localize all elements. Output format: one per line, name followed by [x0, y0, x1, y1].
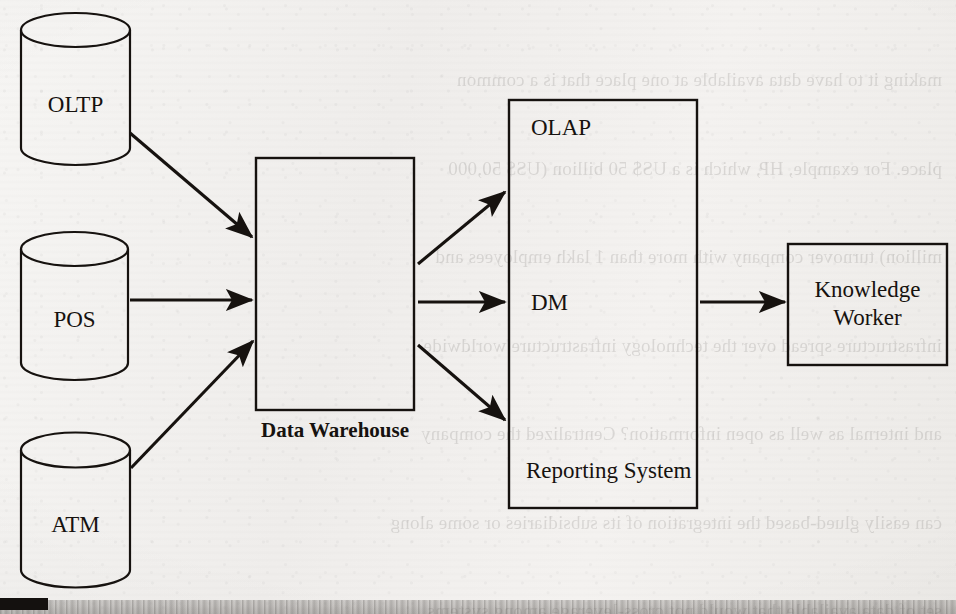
scan-edge-marker	[0, 598, 48, 610]
arrow-oltp-to-data-warehouse	[130, 133, 252, 237]
source-node-pos[interactable]: POS	[21, 232, 128, 380]
analytics-item-dm[interactable]: DM	[531, 290, 568, 315]
source-node-atm[interactable]: ATM	[21, 433, 130, 588]
data-warehouse-box	[256, 158, 414, 410]
data-warehouse-caption: Data Warehouse	[261, 418, 409, 442]
source-label-oltp: OLTP	[48, 92, 103, 117]
data-warehouse-architecture-diagram: OLTP POS ATM Data Warehouse	[0, 0, 956, 614]
cylinder-top-atm	[21, 433, 130, 468]
analytics-item-olap[interactable]: OLAP	[531, 115, 591, 140]
knowledge-worker-label-line2: Worker	[833, 305, 902, 330]
scanned-page: making it to have data available at one …	[0, 0, 956, 614]
knowledge-worker-label-line1: Knowledge	[814, 277, 920, 302]
source-label-pos: POS	[53, 307, 95, 332]
cylinder-top-oltp	[21, 13, 130, 47]
source-label-atm: ATM	[51, 512, 100, 537]
analytics-node[interactable]: OLAP DM Reporting System	[509, 100, 697, 508]
knowledge-worker-node[interactable]: Knowledge Worker	[788, 244, 947, 365]
cylinder-top-pos	[21, 232, 128, 266]
analytics-item-reporting-system[interactable]: Reporting System	[526, 458, 692, 483]
arrow-data-warehouse-to-reporting-system	[418, 345, 505, 420]
page-bottom-edge-strip	[0, 600, 956, 614]
arrow-atm-to-data-warehouse	[131, 341, 253, 468]
source-node-oltp[interactable]: OLTP	[21, 13, 130, 165]
data-warehouse-node[interactable]: Data Warehouse	[256, 158, 414, 442]
page-bottom-edge-texture	[0, 600, 956, 614]
arrow-data-warehouse-to-olap	[418, 192, 505, 264]
